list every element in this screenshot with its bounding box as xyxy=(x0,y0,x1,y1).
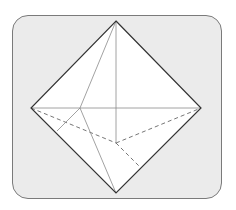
octahedron-diagram xyxy=(0,0,236,210)
